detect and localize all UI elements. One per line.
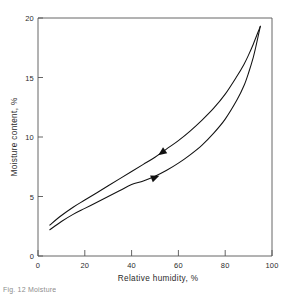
curve-adsorption [50,26,261,229]
x-tick-label-20: 20 [80,261,89,270]
annotations-group [150,147,167,182]
figure-caption: Fig. 12 Moisture [3,286,56,294]
curve-desorption [50,26,261,225]
x-tick-label-80: 80 [221,261,230,270]
y-tick-label-15: 15 [25,74,34,83]
adsorption-arrow-icon [150,176,159,183]
y-tick-label-5: 5 [30,193,34,202]
y-axis-ticks [38,18,43,256]
figure-container: 0 5 10 15 20 0 20 40 60 80 100 Relative … [0,0,294,294]
moisture-sorption-chart: 0 5 10 15 20 0 20 40 60 80 100 Relative … [0,0,294,294]
desorption-arrow-icon [158,147,167,155]
y-tick-label-0: 0 [30,252,34,261]
x-tick-label-100: 100 [265,261,278,270]
x-tick-label-60: 60 [174,261,183,270]
x-tick-label-0: 0 [36,261,40,270]
series-group [50,26,261,229]
y-tick-label-10: 10 [25,133,34,142]
y-axis-tick-labels: 0 5 10 15 20 [25,14,34,261]
y-axis-title: Moisture content, % [10,97,19,176]
plot-frame [38,18,272,256]
x-axis-title: Relative humidity, % [118,274,199,283]
x-axis-ticks [38,250,272,256]
x-axis-tick-labels: 0 20 40 60 80 100 [36,261,279,270]
x-tick-label-40: 40 [127,261,136,270]
y-tick-label-20: 20 [25,14,34,23]
